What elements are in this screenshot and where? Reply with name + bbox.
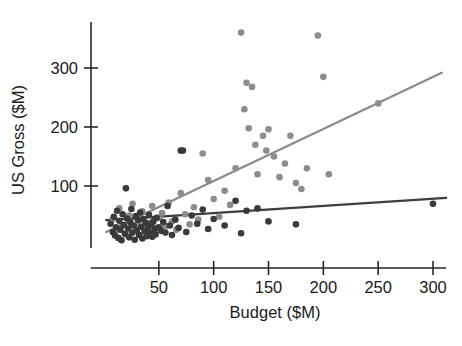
data-point (254, 205, 261, 212)
regression-lines-group (106, 73, 446, 232)
data-point (172, 216, 179, 223)
dark-series-points (107, 147, 436, 243)
data-point (221, 222, 228, 229)
plot-canvas: 10020030050100150200250300 Budget ($M) U… (0, 0, 462, 346)
data-point (241, 106, 248, 113)
data-point (146, 212, 153, 219)
data-point (175, 225, 182, 232)
data-point (430, 200, 437, 207)
data-point (252, 141, 259, 148)
data-point (238, 230, 245, 237)
y-tick-label: 200 (50, 118, 78, 136)
tick-labels-group: 10020030050100150200250300 (50, 59, 446, 296)
data-point (191, 204, 198, 211)
data-point (326, 171, 333, 178)
data-point (210, 216, 217, 223)
x-tick-label: 200 (310, 278, 338, 296)
data-point (249, 84, 256, 91)
data-point (152, 231, 159, 238)
x-tick-label: 100 (200, 278, 228, 296)
x-tick-label: 300 (419, 278, 447, 296)
data-point (260, 133, 267, 140)
data-point (128, 206, 135, 213)
data-point (114, 207, 121, 214)
scatter-plot-figure: 10020030050100150200250300 Budget ($M) U… (0, 0, 462, 346)
data-point (238, 29, 245, 36)
data-point (315, 32, 322, 39)
y-axis-title: US Gross ($M) (9, 85, 27, 195)
data-point (188, 212, 195, 219)
data-point (205, 177, 212, 184)
data-point (199, 206, 206, 213)
data-point (298, 186, 305, 193)
data-point (254, 171, 261, 178)
data-point (177, 190, 184, 197)
data-point (320, 74, 327, 81)
data-point (159, 210, 166, 217)
x-tick-label: 150 (255, 278, 283, 296)
data-point (243, 79, 250, 86)
data-point (243, 207, 250, 214)
data-point (186, 221, 193, 228)
data-point (265, 126, 272, 133)
x-axis-title: Budget ($M) (230, 303, 321, 321)
data-point (162, 229, 169, 236)
data-point (210, 196, 217, 203)
x-tick-label: 250 (364, 278, 392, 296)
data-point (232, 197, 239, 204)
data-point (135, 217, 142, 224)
data-point (169, 232, 176, 239)
data-point (111, 213, 118, 220)
data-point (245, 125, 252, 132)
data-point (194, 220, 201, 227)
y-tick-label: 100 (50, 177, 78, 195)
data-point (182, 211, 189, 218)
data-point (180, 147, 187, 154)
data-point (304, 165, 311, 172)
data-point (107, 220, 114, 227)
data-point (183, 229, 190, 236)
data-point (149, 203, 156, 210)
data-point (293, 221, 300, 228)
data-point (293, 180, 300, 187)
data-point (263, 147, 270, 154)
light-series-points (109, 29, 381, 237)
data-point (271, 153, 278, 160)
data-point (375, 100, 382, 107)
x-tick-label: 50 (150, 278, 168, 296)
data-point (227, 202, 234, 209)
data-point (287, 133, 294, 140)
data-point (265, 218, 272, 225)
data-point (164, 203, 171, 210)
data-point (118, 237, 125, 244)
data-point (160, 219, 167, 226)
data-point (276, 174, 283, 181)
data-point (205, 226, 212, 233)
data-point (199, 150, 206, 157)
data-point (153, 215, 160, 222)
data-point (123, 185, 130, 192)
y-tick-label: 300 (50, 59, 78, 77)
data-point (167, 222, 174, 229)
data-point (221, 187, 228, 194)
data-point (282, 160, 289, 167)
data-point (232, 165, 239, 172)
data-point (137, 209, 144, 216)
